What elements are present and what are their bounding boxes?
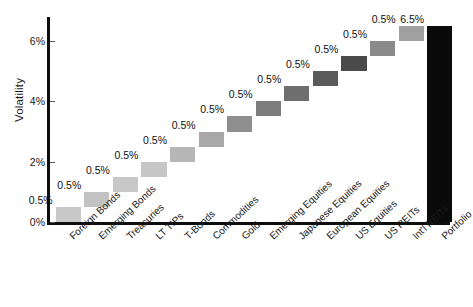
y-axis-tick-mark xyxy=(50,41,55,42)
x-axis-tick-label: T-Bonds xyxy=(182,208,217,241)
y-axis-tick-mark xyxy=(50,222,55,223)
y-axis-tick-mark xyxy=(50,101,55,102)
y-axis-tick-mark xyxy=(50,162,55,163)
x-axis-tick-label: Gold xyxy=(239,219,262,241)
